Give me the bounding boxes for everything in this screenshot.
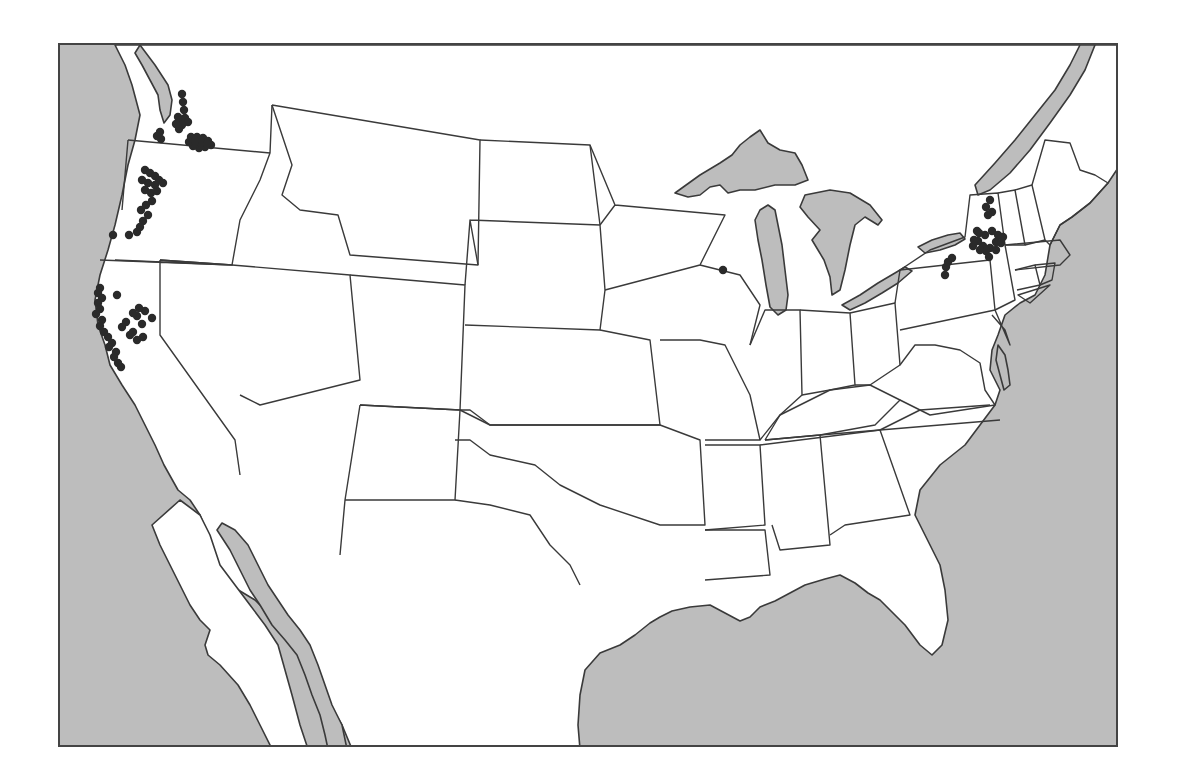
- occurrence-dot: [137, 206, 145, 214]
- occurrence-dot: [985, 253, 993, 261]
- occurrence-dot: [109, 231, 117, 239]
- occurrence-dot: [148, 314, 156, 322]
- occurrence-dot: [117, 363, 125, 371]
- occurrence-dot: [973, 227, 981, 235]
- occurrence-dot: [157, 135, 165, 143]
- occurrence-dot: [92, 310, 100, 318]
- occurrence-dot: [948, 254, 956, 262]
- chesapeake-bay: [996, 345, 1010, 390]
- occurrence-dot: [999, 233, 1007, 241]
- occurrence-dot: [984, 211, 992, 219]
- occurrence-dot: [942, 263, 950, 271]
- occurrence-dot: [992, 246, 1000, 254]
- occurrence-dot: [159, 179, 167, 187]
- occurrence-dot: [118, 323, 126, 331]
- occurrence-dot: [179, 98, 187, 106]
- occurrence-dot: [941, 271, 949, 279]
- occurrence-dot: [126, 331, 134, 339]
- occurrence-dot: [138, 176, 146, 184]
- dot-cluster-wisconsin: [719, 266, 727, 274]
- occurrence-dot: [129, 309, 137, 317]
- us-map: [60, 45, 1118, 747]
- occurrence-dot: [719, 266, 727, 274]
- occurrence-dot: [203, 140, 211, 148]
- occurrence-dot: [113, 291, 121, 299]
- occurrence-dot: [133, 228, 141, 236]
- occurrence-dot: [153, 187, 161, 195]
- occurrence-dot: [969, 242, 977, 250]
- occurrence-dot: [125, 231, 133, 239]
- map-frame: [58, 43, 1118, 747]
- occurrence-dot: [180, 106, 188, 114]
- occurrence-dot: [178, 90, 186, 98]
- occurrence-dot: [105, 343, 113, 351]
- occurrence-dot: [133, 336, 141, 344]
- dot-cluster-new-york-scattered: [973, 227, 981, 235]
- occurrence-dot: [172, 120, 180, 128]
- occurrence-dot: [138, 320, 146, 328]
- occurrence-dot: [191, 137, 199, 145]
